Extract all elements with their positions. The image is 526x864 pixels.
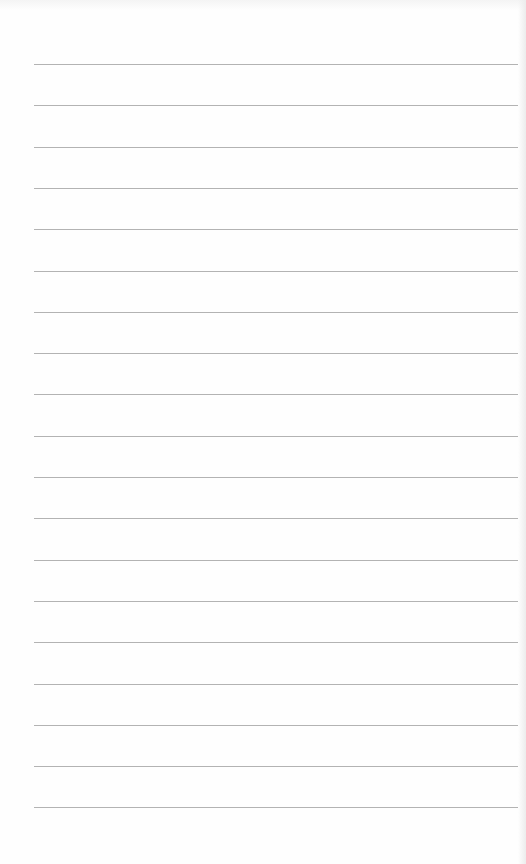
right-edge-shadow bbox=[518, 0, 526, 864]
ruled-line bbox=[34, 642, 518, 643]
ruled-line bbox=[34, 188, 518, 189]
ruled-line bbox=[34, 271, 518, 272]
ruled-line bbox=[34, 394, 518, 395]
ruled-line bbox=[34, 229, 518, 230]
ruled-line bbox=[34, 601, 518, 602]
lined-paper-page bbox=[0, 0, 526, 864]
ruled-line bbox=[34, 560, 518, 561]
ruled-line bbox=[34, 312, 518, 313]
ruled-line bbox=[34, 436, 518, 437]
ruled-line bbox=[34, 807, 518, 808]
ruled-line bbox=[34, 518, 518, 519]
ruled-line bbox=[34, 477, 518, 478]
top-edge-shading bbox=[0, 0, 526, 10]
ruled-line bbox=[34, 766, 518, 767]
ruled-line bbox=[34, 725, 518, 726]
ruled-line bbox=[34, 147, 518, 148]
ruled-line bbox=[34, 684, 518, 685]
ruled-line bbox=[34, 64, 518, 65]
ruled-line bbox=[34, 353, 518, 354]
ruled-line bbox=[34, 105, 518, 106]
